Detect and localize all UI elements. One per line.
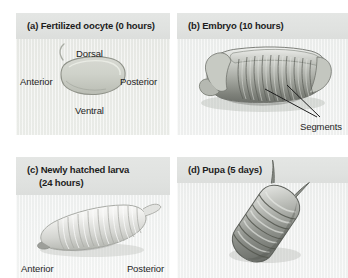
oocyte-illustration [16, 13, 170, 135]
micropyle-filament [60, 44, 64, 60]
panel-fertilized-oocyte: (a) Fertilized oocyte (0 hours) [16, 13, 170, 135]
pupa-anterior-horn-right [294, 180, 309, 199]
larva-illustration [16, 157, 170, 278]
label-posterior-larva: Posterior [127, 263, 164, 274]
label-anterior-larva: Anterior [21, 263, 53, 274]
developmental-stages-figure: (a) Fertilized oocyte (0 hours) [0, 0, 348, 278]
label-ventral: Ventral [75, 105, 104, 116]
label-dorsal: Dorsal [76, 48, 103, 59]
pupa-anterior-horn-left [261, 160, 284, 184]
label-segments: Segments [300, 121, 342, 132]
larva-posterior-spiracle [143, 204, 161, 216]
pupa-illustration [177, 157, 348, 278]
label-posterior-oocyte: Posterior [120, 76, 157, 87]
oocyte-body [61, 57, 125, 95]
panel-embryo: (b) Embryo (10 hours) [177, 13, 348, 135]
label-anterior-oocyte: Anterior [20, 76, 52, 87]
panel-newly-hatched-larva: (c) Newly hatched larva(24 hours) [16, 157, 170, 278]
embryo-illustration [177, 13, 348, 135]
panel-pupa: (d) Pupa (5 days) [177, 157, 348, 278]
